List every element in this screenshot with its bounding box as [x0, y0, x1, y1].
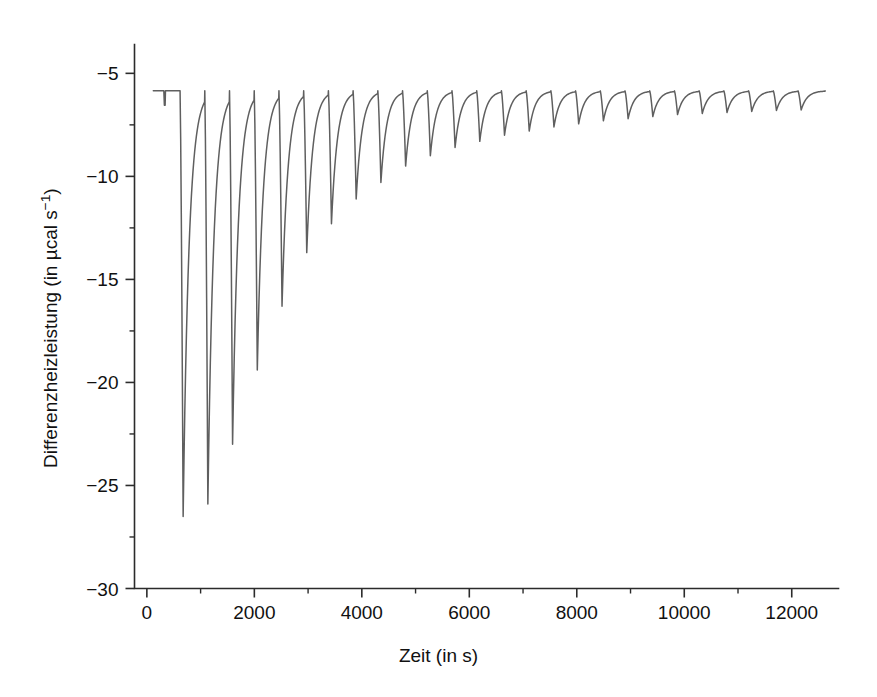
thermogram-trace: [153, 91, 825, 517]
plot-area: 020004000600080001000012000−5−10−15−20−2…: [0, 0, 877, 697]
itc-thermogram-figure: 020004000600080001000012000−5−10−15−20−2…: [0, 0, 877, 697]
y-tick-label: −20: [86, 372, 118, 393]
y-tick-label: −10: [86, 166, 118, 187]
y-tick-label: −30: [86, 579, 118, 600]
x-tick-label: 2000: [233, 602, 275, 623]
tick-labels: 020004000600080001000012000−5−10−15−20−2…: [86, 63, 818, 622]
x-tick-label: 8000: [556, 602, 598, 623]
x-tick-label: 0: [142, 602, 153, 623]
y-tick-label: −15: [86, 269, 118, 290]
data-trace: [153, 91, 825, 517]
x-tick-label: 12000: [765, 602, 818, 623]
x-tick-label: 4000: [341, 602, 383, 623]
y-tick-label: −25: [86, 475, 118, 496]
y-tick-label: −5: [97, 63, 119, 84]
axes: [135, 45, 839, 589]
tick-marks: [126, 73, 792, 597]
x-tick-label: 10000: [658, 602, 711, 623]
x-tick-label: 6000: [448, 602, 490, 623]
